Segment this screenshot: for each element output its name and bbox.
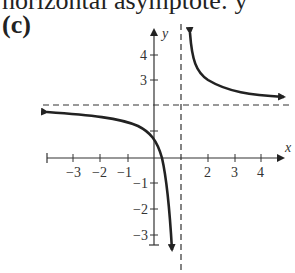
x-tick-label: −2	[92, 165, 107, 180]
y-tick-label: 4	[140, 48, 147, 63]
rational-function-graph: −3 −2 −1 2 3 4 4 3 −1 −2 −3 x y	[0, 0, 295, 273]
y-axis-label: y	[160, 26, 169, 41]
y-tick-label: 3	[140, 73, 147, 88]
y-tick-label: −3	[133, 228, 148, 243]
x-tick-label: 4	[257, 165, 264, 180]
y-tick-label: −2	[133, 202, 148, 217]
x-tick-label: −1	[117, 165, 132, 180]
x-tick-label: −3	[66, 165, 81, 180]
x-axis	[47, 153, 283, 163]
x-tick-label: 2	[204, 165, 211, 180]
curve-left-branch	[47, 112, 172, 250]
curve-right-branch	[190, 33, 284, 97]
x-tick-label: 3	[231, 165, 238, 180]
x-axis-label: x	[284, 140, 292, 155]
y-tick-label: −1	[133, 176, 148, 191]
